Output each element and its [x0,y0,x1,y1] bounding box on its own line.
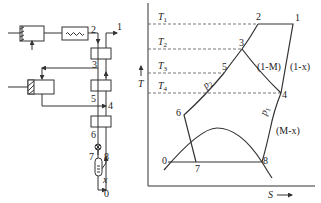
point-3: 3 [239,37,244,48]
stream-label-5: 5 [91,93,96,104]
point-2: 2 [256,11,261,22]
separator-vessel [95,158,102,176]
temp-level-T1: T1 [158,11,168,24]
isobar-label-p1: p1 [257,104,273,118]
point-6: 6 [176,107,181,118]
saturation-dome [164,128,272,178]
stream-label-0: 0 [104,188,109,199]
process-schematic: 2 1 3 5 4 6 7 8 x 0 [8,21,122,199]
heater-unit [62,27,88,40]
point-8: 8 [263,155,268,166]
stream-label-2: 2 [91,24,96,35]
stream-label-1: 1 [117,21,122,32]
point-7: 7 [195,163,200,174]
isobar-label-p2: p2 [199,76,215,92]
label-one-minus-x: (1-x) [290,61,310,73]
temp-level-T4: T4 [158,80,168,93]
stream-label-8: 8 [104,151,109,162]
expander-unit [8,80,54,94]
stream-label-4: 4 [108,100,113,111]
point-0: 0 [162,155,167,166]
point-4: 4 [282,89,287,100]
label-one-minus-M: (1-M) [257,61,281,73]
point-5: 5 [222,61,227,72]
stream-label-6: 6 [91,129,96,140]
stream-label-3: 3 [92,59,97,70]
line-2-1-4 [258,24,293,93]
compressor-unit [8,26,44,50]
heat-exchanger-2 [91,80,111,91]
y-axis-label: T [138,78,145,89]
heat-exchanger-3 [91,116,111,127]
point-1: 1 [295,12,300,23]
ts-diagram: T S T1 T2 T3 T4 2 1 3 5 4 6 0 7 8 (1-M) … [138,3,315,200]
temp-level-T2: T2 [158,36,168,49]
stream-label-7: 7 [89,151,94,162]
heat-exchanger-1 [91,48,111,59]
x-axis-label: S [268,189,273,200]
outlet-label-x: x [102,174,108,185]
figure-canvas: 2 1 3 5 4 6 7 8 x 0 T S T1 T2 T3 T4 [0,0,321,203]
label-M-minus-x: (M-x) [276,125,300,137]
temp-level-T3: T3 [158,60,168,73]
